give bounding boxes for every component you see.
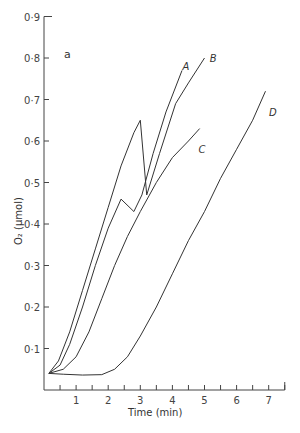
y-tick-label: 0·6 [24, 136, 40, 147]
series-labels: ABCD [181, 53, 277, 155]
x-tick-label: 4 [169, 395, 175, 406]
curve-a [49, 70, 182, 373]
x-tick-label: 3 [137, 395, 143, 406]
y-axis-title: O₂ (μmol) [13, 197, 24, 245]
x-tick-label: 7 [266, 395, 272, 406]
y-tick-label: 0·4 [24, 219, 40, 230]
x-tick-label: 2 [105, 395, 111, 406]
y-tick-label: 0·3 [24, 261, 40, 272]
axis-lines [44, 17, 285, 391]
axes [44, 17, 285, 391]
series-label-a: A [181, 61, 189, 72]
curves [49, 58, 266, 375]
y-tick-label: 0·9 [24, 12, 40, 23]
y-tick-label: 0·5 [24, 178, 40, 189]
y-tick-label: 0·2 [24, 302, 40, 313]
curve-d [49, 91, 266, 375]
y-tick-label: 0·7 [24, 95, 40, 106]
curve-b [49, 58, 205, 373]
ticks: 0·10·20·30·40·50·60·70·80·91234567 [24, 12, 285, 407]
curve-c [49, 129, 200, 374]
y-tick-label: 0·8 [24, 53, 40, 64]
series-label-d: D [269, 107, 277, 118]
x-tick-label: 6 [233, 395, 239, 406]
x-tick-label: 1 [73, 395, 79, 406]
y-tick-label: 0·1 [24, 344, 40, 355]
oxygen-evolution-chart: 0·10·20·30·40·50·60·70·80·91234567 ABCD … [0, 0, 300, 433]
series-label-c: C [198, 144, 205, 155]
x-tick-label: 5 [201, 395, 207, 406]
panel-label: a [64, 48, 71, 61]
series-label-b: B [210, 53, 217, 64]
x-axis-title: Time (min) [127, 407, 182, 418]
